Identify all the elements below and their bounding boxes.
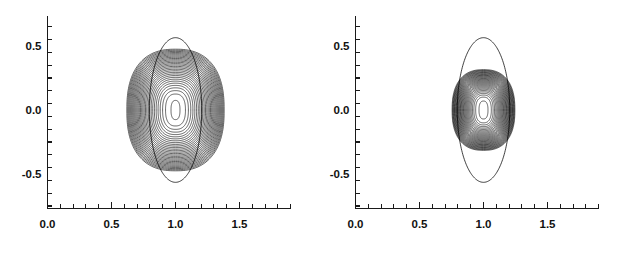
contour-line [467, 87, 500, 133]
y-tick-label: -0.5 [22, 168, 42, 180]
y-tick-label: -0.5 [330, 168, 350, 180]
y-tick-label: 0.0 [26, 104, 42, 116]
contour-line [479, 101, 488, 119]
tick-label-group-right: 0.00.51.01.5-0.50.00.5 [330, 40, 556, 230]
contour-line [151, 77, 200, 142]
axes-left [48, 16, 292, 209]
y-tick-label: 0.5 [334, 40, 351, 52]
contour-line [130, 53, 222, 168]
contour-line [150, 76, 202, 145]
x-tick-label: 0.0 [348, 218, 364, 230]
contour-line [156, 83, 195, 137]
x-tick-label: 1.5 [232, 218, 249, 230]
tick-group-right [356, 27, 599, 209]
contour-panel-right: 0.00.51.01.5-0.50.00.5 [308, 0, 616, 253]
axes-right [356, 16, 600, 209]
x-tick-label: 1.0 [476, 218, 492, 230]
contour-plot-left-svg: 0.00.51.01.5-0.50.00.5 [0, 0, 308, 253]
contour-line [147, 72, 204, 147]
contour-line [465, 85, 502, 135]
contour-plot-right-svg: 0.00.51.01.5-0.50.00.5 [308, 0, 616, 253]
contour-line [128, 50, 223, 169]
contour-lines-left [127, 38, 224, 183]
contour-line [158, 85, 193, 134]
contour-line [171, 100, 180, 119]
contour-panel-left: 0.00.51.01.5-0.50.00.5 [0, 0, 308, 253]
contour-line [144, 69, 207, 150]
contour-lines-right [452, 38, 515, 183]
contour-line [166, 94, 186, 126]
y-tick-label: 0.5 [26, 40, 43, 52]
x-tick-label: 1.0 [168, 218, 184, 230]
x-tick-label: 0.5 [104, 218, 121, 230]
y-tick-label: 0.0 [334, 104, 350, 116]
contour-line [136, 60, 215, 161]
contour-line [163, 91, 189, 130]
contour-line [474, 95, 493, 125]
x-tick-label: 0.0 [40, 218, 56, 230]
contour-line [459, 78, 508, 143]
x-tick-label: 1.5 [540, 218, 557, 230]
contour-figure: 0.00.51.01.5-0.50.00.5 0.00.51.01.5-0.50… [0, 0, 617, 253]
contour-outer-ellipse [149, 38, 201, 183]
contour-line [160, 88, 191, 132]
x-tick-label: 0.5 [412, 218, 429, 230]
